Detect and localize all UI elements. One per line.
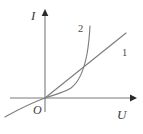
curve-2-label: 2 (78, 24, 83, 35)
current-axis-label: I (31, 9, 35, 22)
current-axis-arrow-icon (42, 9, 49, 16)
curve-1-label: 1 (122, 48, 127, 59)
iu-characteristic-figure: I U O 1 2 (0, 0, 143, 134)
origin-label: O (33, 104, 42, 116)
curve-1-path (45, 33, 126, 98)
voltage-axis-label: U (117, 108, 126, 121)
voltage-axis-arrow-icon (130, 95, 137, 102)
